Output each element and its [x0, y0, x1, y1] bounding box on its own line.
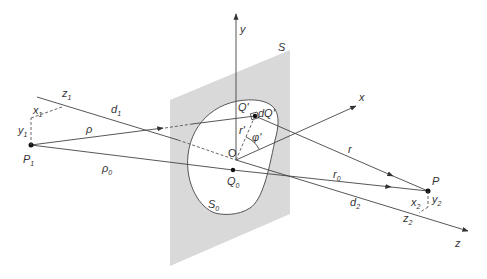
z1-label: z1 [61, 87, 72, 101]
phi-prime-label: φ' [252, 131, 262, 143]
x-axis-label: x [358, 91, 365, 103]
x1-label: x1 [32, 104, 43, 118]
dq-label: dQ' [258, 107, 276, 119]
y2-label: y2 [431, 193, 442, 207]
p1-label: P1 [23, 153, 34, 167]
z-axis-label: z [454, 237, 461, 249]
rho0-label: ρ0 [101, 162, 112, 176]
qprime-label: Q' [238, 101, 250, 113]
d1-line [37, 97, 178, 140]
diffraction-diagram: y x z S S0 O Q0 Q' dQ' r' φ' r r0 ρ ρ0 d… [0, 0, 487, 279]
point-q0 [231, 168, 235, 172]
rho-label: ρ [85, 123, 92, 135]
point-qprime [253, 114, 257, 118]
y-axis-label: y [239, 23, 247, 35]
rho-line [31, 128, 163, 145]
x2-label: x2 [410, 196, 421, 210]
r-prime-label: r' [239, 124, 246, 136]
d1-label: d1 [111, 103, 121, 117]
plane-label: S [278, 41, 286, 53]
d2-label: d2 [350, 196, 360, 210]
origin-label: O [228, 147, 237, 159]
r-label: r [348, 143, 353, 155]
z2-label: z2 [402, 212, 413, 226]
y1-label: y1 [17, 124, 28, 138]
r0-label: r0 [333, 168, 341, 182]
p-label: P [432, 175, 440, 187]
